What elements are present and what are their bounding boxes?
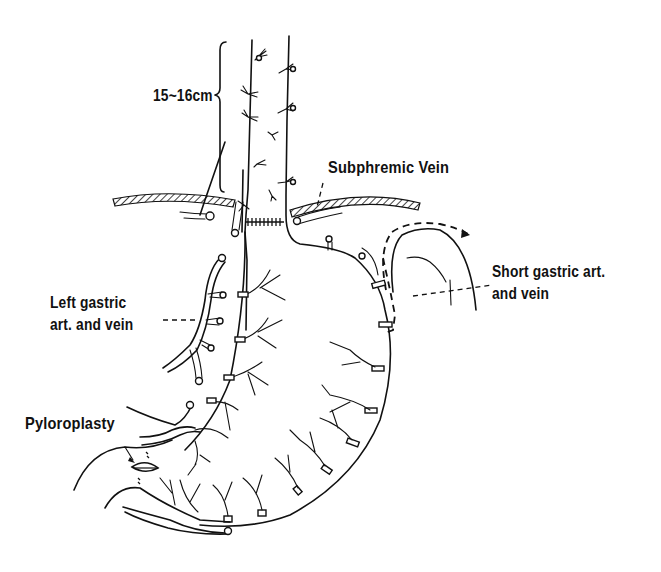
gastroepiploic-branches: [160, 342, 375, 516]
left-gastric-label-line2: art. and vein: [50, 315, 133, 334]
left-gastric-vessels: [163, 255, 226, 385]
greater-curvature-ligatures: [224, 280, 392, 522]
anastomosis-suture-line: [245, 218, 284, 226]
vagal-lines: [180, 142, 243, 237]
length-brace: [215, 42, 226, 192]
left-gastric-label-line1: Left gastric: [50, 293, 126, 312]
pyloroplasty-label: Pyloroplasty: [25, 414, 115, 433]
subphremic-vein-label: Subphremic Vein: [328, 158, 449, 177]
short-gastric-vessels: [326, 223, 492, 333]
length-label: 15~16cm: [153, 86, 213, 105]
diagram-canvas: 15~16cm Subphremic Vein Short gastric ar…: [0, 0, 661, 572]
diaphragm: [113, 194, 420, 217]
short-gastric-label-line1: Short gastric art.: [492, 262, 605, 281]
stomach-illustration: [0, 0, 661, 572]
lesser-curvature: [185, 232, 285, 450]
short-gastric-label-line2: and vein: [492, 284, 549, 303]
